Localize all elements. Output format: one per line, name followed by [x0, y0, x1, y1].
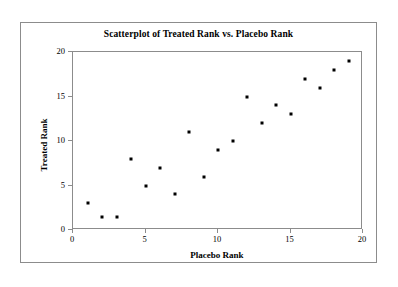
data-point	[115, 215, 118, 218]
data-point	[231, 140, 234, 143]
x-tick-label: 0	[70, 234, 74, 244]
x-tick-label: 20	[358, 234, 367, 244]
data-point	[260, 122, 263, 125]
x-tick	[72, 229, 73, 233]
plot-area	[72, 51, 362, 229]
x-tick-label: 10	[213, 234, 222, 244]
x-tick	[145, 229, 146, 233]
data-point	[333, 68, 336, 71]
y-tick-label: 20	[50, 46, 65, 56]
data-point	[304, 77, 307, 80]
data-point	[130, 157, 133, 160]
data-point	[86, 202, 89, 205]
y-tick-label: 0	[50, 224, 65, 234]
data-point	[202, 175, 205, 178]
x-tick	[217, 229, 218, 233]
data-point	[101, 215, 104, 218]
data-point	[246, 95, 249, 98]
x-tick	[362, 229, 363, 233]
data-point	[275, 104, 278, 107]
data-point	[289, 113, 292, 116]
data-point	[159, 166, 162, 169]
y-tick	[68, 229, 72, 230]
x-tick	[290, 229, 291, 233]
data-point	[217, 148, 220, 151]
scatterplot-figure: Scatterplot of Treated Rank vs. Placebo …	[0, 0, 398, 287]
x-tick-label: 15	[285, 234, 294, 244]
data-point	[144, 184, 147, 187]
y-tick-label: 15	[50, 91, 65, 101]
y-tick-label: 5	[50, 180, 65, 190]
y-tick	[68, 51, 72, 52]
data-point	[173, 193, 176, 196]
y-axis-label: Treated Rank	[39, 95, 49, 195]
x-tick-label: 5	[142, 234, 146, 244]
chart-title: Scatterplot of Treated Rank vs. Placebo …	[20, 29, 377, 39]
data-point	[188, 131, 191, 134]
data-point	[347, 59, 350, 62]
x-axis-label: Placebo Rank	[72, 250, 362, 260]
y-tick	[68, 185, 72, 186]
y-tick-label: 10	[50, 135, 65, 145]
data-point	[318, 86, 321, 89]
y-tick	[68, 96, 72, 97]
y-tick	[68, 140, 72, 141]
